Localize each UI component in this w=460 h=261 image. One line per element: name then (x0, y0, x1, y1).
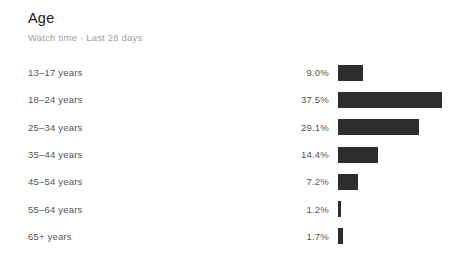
value-label: 29.1% (148, 122, 333, 133)
age-bar-chart: 13–17 years 9.0% 18–24 years 37.5% 25–34… (0, 59, 460, 250)
bar[interactable] (338, 228, 343, 244)
category-label: 65+ years (28, 231, 148, 242)
bar-row: 65+ years 1.7% (0, 223, 460, 250)
category-label: 13–17 years (28, 67, 148, 78)
card-subtitle: Watch time · Last 28 days (28, 32, 460, 44)
bar[interactable] (338, 201, 341, 217)
card-header: Age Watch time · Last 28 days (0, 0, 460, 44)
category-label: 25–34 years (28, 122, 148, 133)
bar-track (338, 201, 442, 217)
age-analytics-card: Age Watch time · Last 28 days 13–17 year… (0, 0, 460, 261)
bar[interactable] (338, 147, 378, 163)
category-label: 35–44 years (28, 149, 148, 160)
value-label: 1.2% (148, 204, 333, 215)
bar[interactable] (338, 174, 358, 190)
bar-row: 25–34 years 29.1% (0, 114, 460, 141)
bar-track (338, 228, 442, 244)
bar-track (338, 119, 442, 135)
bar-track (338, 92, 442, 108)
value-label: 7.2% (148, 176, 333, 187)
value-label: 14.4% (148, 149, 333, 160)
bar-row: 45–54 years 7.2% (0, 168, 460, 195)
bar-row: 18–24 years 37.5% (0, 86, 460, 113)
bar-track (338, 174, 442, 190)
bar-row: 55–64 years 1.2% (0, 195, 460, 222)
bar-row: 35–44 years 14.4% (0, 141, 460, 168)
card-title: Age (28, 10, 460, 27)
bar[interactable] (338, 92, 442, 108)
bar[interactable] (338, 65, 363, 81)
bar[interactable] (338, 119, 419, 135)
bar-row: 13–17 years 9.0% (0, 59, 460, 86)
category-label: 18–24 years (28, 94, 148, 105)
value-label: 1.7% (148, 231, 333, 242)
category-label: 55–64 years (28, 204, 148, 215)
bar-track (338, 65, 442, 81)
value-label: 37.5% (148, 94, 333, 105)
category-label: 45–54 years (28, 176, 148, 187)
value-label: 9.0% (148, 67, 333, 78)
bar-track (338, 147, 442, 163)
